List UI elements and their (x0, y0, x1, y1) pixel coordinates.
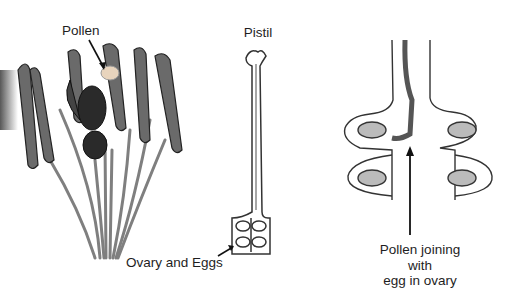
pollination-diagram: Pollen Pistil Ovary and Eggs Pollen join… (0, 0, 514, 291)
pollen-label: Pollen (62, 24, 100, 38)
pistil-illustration (218, 51, 270, 256)
ovary-closeup-illustration (345, 40, 493, 235)
pistil-label: Pistil (244, 26, 273, 40)
ovary-and-eggs-label: Ovary and Eggs (126, 256, 223, 270)
pollen-joining-label: Pollen joining with egg in ovary (373, 242, 467, 289)
flower-illustration (18, 40, 182, 258)
